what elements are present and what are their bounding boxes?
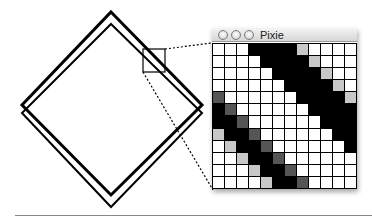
pixel-cell — [333, 92, 344, 103]
pixel-cell — [333, 116, 344, 127]
pixel-cell — [309, 92, 320, 103]
diamond-shapes — [22, 12, 202, 207]
pixel-cell — [237, 80, 248, 91]
pixel-cell — [225, 68, 236, 79]
pixel-cell — [309, 129, 320, 140]
pixel-cell — [237, 68, 248, 79]
pixel-cell — [225, 56, 236, 67]
pixel-cell — [213, 165, 224, 176]
pixel-cell — [249, 116, 260, 127]
pixie-window: Pixie — [212, 28, 357, 189]
minimize-button[interactable] — [231, 30, 241, 40]
pixel-cell — [309, 177, 320, 188]
pixel-cell — [333, 129, 344, 140]
pixel-cell — [273, 153, 284, 164]
pixel-cell — [285, 153, 296, 164]
pixel-cell — [213, 141, 224, 152]
pixel-cell — [213, 104, 224, 115]
pixel-cell — [249, 80, 260, 91]
pixel-cell — [309, 68, 320, 79]
pixel-cell — [249, 92, 260, 103]
pixel-cell — [237, 104, 248, 115]
pixel-cell — [345, 116, 356, 127]
pixel-cell — [225, 177, 236, 188]
pixel-cell — [273, 141, 284, 152]
pixel-cell — [285, 56, 296, 67]
pixel-cell — [225, 44, 236, 55]
pixel-cell — [309, 116, 320, 127]
pixel-cell — [249, 104, 260, 115]
pixel-cell — [345, 177, 356, 188]
pixel-cell — [309, 56, 320, 67]
pixel-cell — [261, 92, 272, 103]
pixel-cell — [225, 141, 236, 152]
pixel-cell — [213, 68, 224, 79]
pixel-cell — [225, 153, 236, 164]
pixel-cell — [273, 104, 284, 115]
pixel-cell — [237, 56, 248, 67]
pixel-cell — [345, 141, 356, 152]
pixel-cell — [297, 92, 308, 103]
pixel-cell — [297, 141, 308, 152]
pixel-cell — [333, 68, 344, 79]
pixel-cell — [273, 177, 284, 188]
pixel-cell — [273, 129, 284, 140]
pixel-cell — [297, 116, 308, 127]
pixel-cell — [273, 92, 284, 103]
close-button[interactable] — [218, 30, 228, 40]
pixel-cell — [225, 129, 236, 140]
pixel-cell — [333, 104, 344, 115]
pixel-cell — [345, 56, 356, 67]
magnifier-box — [143, 49, 165, 72]
pixel-cell — [345, 80, 356, 91]
pixel-cell — [285, 165, 296, 176]
pixel-cell — [297, 177, 308, 188]
pixel-cell — [297, 68, 308, 79]
pixel-cell — [213, 56, 224, 67]
pixel-cell — [285, 141, 296, 152]
diamond-outline — [22, 24, 202, 207]
pixel-cell — [237, 153, 248, 164]
pixel-cell — [285, 104, 296, 115]
pixel-cell — [237, 116, 248, 127]
window-title: Pixie — [260, 28, 284, 42]
pixel-cell — [261, 165, 272, 176]
pixel-cell — [321, 68, 332, 79]
pixel-cell — [213, 129, 224, 140]
diamond-outline — [22, 12, 202, 195]
pixel-cell — [249, 129, 260, 140]
pixel-cell — [261, 56, 272, 67]
pixel-cell — [225, 104, 236, 115]
pixel-cell — [333, 80, 344, 91]
dashed-leader-line — [165, 43, 212, 49]
pixel-cell — [237, 165, 248, 176]
pixel-cell — [309, 80, 320, 91]
pixel-cell — [249, 44, 260, 55]
pixel-cell — [345, 92, 356, 103]
pixel-cell — [309, 165, 320, 176]
pixel-cell — [345, 44, 356, 55]
pixel-cell — [321, 129, 332, 140]
pixel-cell — [249, 153, 260, 164]
pixel-cell — [321, 116, 332, 127]
pixel-cell — [261, 177, 272, 188]
pixel-cell — [321, 141, 332, 152]
pixel-cell — [237, 129, 248, 140]
zoom-button[interactable] — [244, 30, 254, 40]
pixel-cell — [309, 44, 320, 55]
pixel-cell — [213, 92, 224, 103]
pixel-cell — [297, 80, 308, 91]
pixel-cell — [261, 44, 272, 55]
pixel-cell — [297, 129, 308, 140]
pixel-cell — [345, 68, 356, 79]
window-titlebar[interactable]: Pixie — [212, 28, 357, 42]
pixel-cell — [273, 44, 284, 55]
pixel-cell — [321, 165, 332, 176]
pixel-cell — [225, 116, 236, 127]
pixel-cell — [333, 44, 344, 55]
pixel-cell — [261, 80, 272, 91]
pixel-cell — [237, 92, 248, 103]
pixel-cell — [321, 80, 332, 91]
pixel-cell — [333, 56, 344, 67]
pixel-cell — [345, 165, 356, 176]
